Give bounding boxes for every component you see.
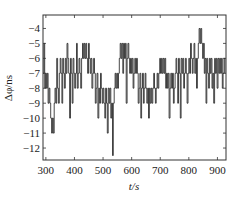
x-tick-label: 900 [209,164,226,176]
x-tick-label: 300 [38,164,55,176]
x-axis: 300400500600700800900 [38,15,227,176]
y-tick-label: −4 [28,22,40,34]
plot-area [43,29,225,156]
y-tick-label: −12 [23,142,40,154]
y-tick-label: −5 [28,37,40,49]
y-tick-label: −7 [28,67,40,79]
y-tick-label: −9 [28,97,40,109]
y-tick-label: −10 [23,112,41,124]
x-tick-label: 700 [152,164,169,176]
y-tick-label: −6 [28,52,40,64]
x-axis-label: t/s [129,180,139,192]
x-tick-label: 600 [123,164,140,176]
chart: 300400500600700800900 −4−5−6−7−8−9−10−11… [0,0,236,200]
x-tick-label: 400 [66,164,83,176]
y-tick-label: −8 [28,82,40,94]
x-tick-label: 800 [181,164,198,176]
y-axis: −4−5−6−7−8−9−10−11−12 [23,22,226,154]
x-tick-label: 500 [95,164,112,176]
data-series-line [43,29,225,156]
y-axis-label: Δφ/ns [2,75,14,101]
y-tick-label: −11 [23,127,40,139]
